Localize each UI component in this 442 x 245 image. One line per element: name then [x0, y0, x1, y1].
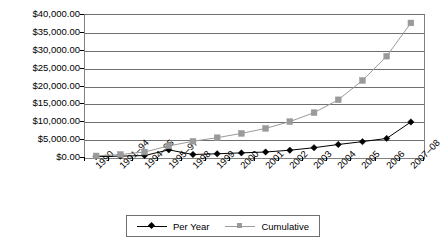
gridline [85, 51, 424, 52]
y-axis: $0.00$5,000.00$10,000.00$15,000.00$20,00… [0, 0, 80, 245]
legend-entry: Cumulative [225, 221, 309, 232]
square-marker [237, 223, 242, 228]
diamond-marker [148, 222, 155, 229]
y-axis-tick-label: $0.00 [0, 152, 80, 162]
gridline [85, 104, 424, 105]
legend-label: Per Year [173, 221, 209, 232]
legend-key [137, 221, 167, 231]
y-axis-tick-label: $20,000.00 [0, 81, 80, 91]
y-axis-tick-label: $35,000.00 [0, 27, 80, 37]
y-axis-tick-label: $10,000.00 [0, 116, 80, 126]
y-axis-tick-label: $5,000.00 [0, 134, 80, 144]
y-axis-tick-label: $30,000.00 [0, 45, 80, 55]
x-axis-tick-mark [84, 157, 85, 161]
y-axis-tick-label: $40,000.00 [0, 9, 80, 19]
chart-legend: Per YearCumulative [126, 215, 320, 237]
legend-key [225, 221, 255, 231]
gridline [85, 122, 424, 123]
y-axis-tick-label: $25,000.00 [0, 63, 80, 73]
gridline [85, 69, 424, 70]
plot-area [84, 14, 425, 159]
legend-label: Cumulative [261, 221, 309, 232]
gridline [85, 140, 424, 141]
gridline [85, 87, 424, 88]
legend-entry: Per Year [137, 221, 209, 232]
gridline [85, 33, 424, 34]
y-axis-tick-label: $15,000.00 [0, 98, 80, 108]
